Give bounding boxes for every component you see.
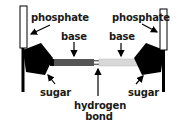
label-phosphate-left: phosphate <box>31 12 89 23</box>
arrow-sugar-right <box>136 76 143 84</box>
left-base-bar <box>54 59 94 66</box>
base-pair-diagram: phosphate base sugar phosphate base suga… <box>0 0 187 130</box>
label-hydrogen-line1: hydrogen <box>74 100 124 111</box>
label-sugar-left: sugar <box>40 87 71 98</box>
label-sugar-right: sugar <box>128 87 159 98</box>
right-backbone-line <box>162 50 165 92</box>
hydrogen-bond-shape <box>94 60 99 65</box>
label-hydrogen-line2: bond <box>74 111 124 122</box>
right-base-bar <box>99 59 141 66</box>
arrow-sugar-left <box>48 75 55 84</box>
arrow-phosphate-left <box>31 25 50 34</box>
left-phosphate-shape <box>20 6 27 48</box>
label-phosphate-right: phosphate <box>112 12 170 23</box>
label-base-right: base <box>109 31 135 42</box>
label-base-left: base <box>61 31 87 42</box>
arrow-phosphate-right <box>142 24 157 32</box>
label-hydrogen-bond: hydrogen bond <box>74 100 124 122</box>
